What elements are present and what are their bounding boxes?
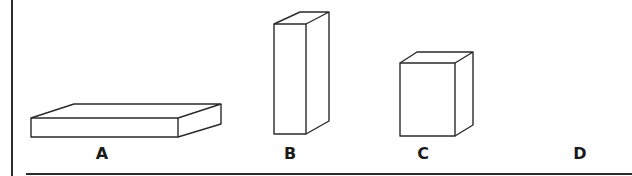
- label-b: B: [284, 146, 296, 162]
- box-a-shape: [31, 104, 221, 137]
- box-b-shape: [274, 12, 329, 134]
- figure-panel: A B C D: [0, 0, 632, 176]
- label-d: D: [573, 146, 586, 162]
- boxes-drawing: [0, 0, 632, 176]
- box-c-shape: [400, 52, 473, 136]
- label-a: A: [96, 146, 108, 162]
- label-c: C: [417, 146, 429, 162]
